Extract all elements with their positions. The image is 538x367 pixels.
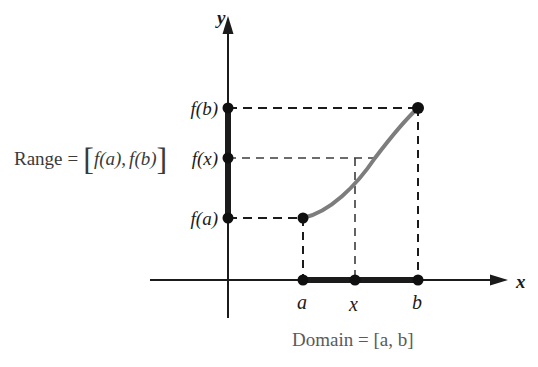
range-bracket-close: ] <box>157 147 168 172</box>
point-fa-on-axis <box>223 213 234 224</box>
point-fx-on-axis <box>223 153 234 164</box>
point-a-fa-on-curve <box>298 213 309 224</box>
y-tick-label-f-of-b: f(b) <box>168 99 218 118</box>
x-tick-label-a: a <box>297 292 307 312</box>
y-tick-label-f-of-a: f(a) <box>168 209 218 228</box>
point-x-on-x-axis <box>350 275 361 286</box>
x-tick-label-b: b <box>412 292 422 312</box>
range-annotation: Range = [ f(a) , f(b) ] <box>14 146 167 171</box>
domain-annotation: Domain = [a, b] <box>292 330 414 349</box>
range-word: Range <box>14 149 63 168</box>
y-tick-label-f-of-x: f(x) <box>168 149 218 168</box>
range-upper-endpoint: f(b) <box>129 149 156 168</box>
function-domain-range-diagram: y x f(b) f(x) f(a) a x b Range = [ f(a) … <box>0 0 538 367</box>
range-lower-endpoint: f(a) <box>94 149 121 168</box>
diagram-canvas <box>0 0 538 367</box>
point-b-fb-on-curve <box>412 102 424 114</box>
point-fb-on-axis <box>223 103 234 114</box>
y-axis-label: y <box>217 8 225 27</box>
range-bracket-open: [ <box>83 147 94 172</box>
range-equals-sign: = <box>68 149 79 168</box>
x-axis-arrowhead <box>490 275 508 286</box>
x-tick-label-x: x <box>349 294 358 314</box>
function-curve <box>303 108 418 218</box>
x-axis-label: x <box>516 272 526 291</box>
range-comma: , <box>121 149 126 168</box>
point-a-on-x-axis <box>298 275 309 286</box>
point-b-on-x-axis <box>413 275 424 286</box>
